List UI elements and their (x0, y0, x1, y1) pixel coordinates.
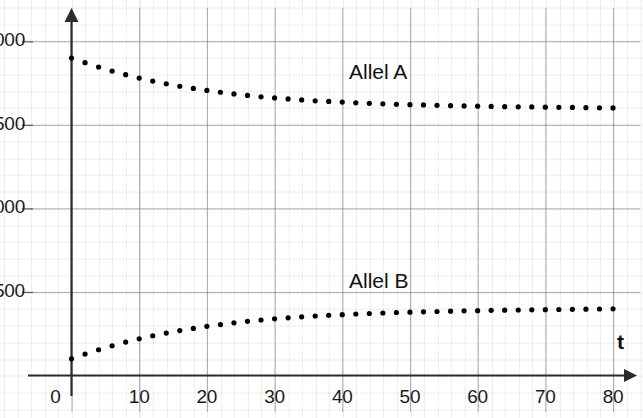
data-point (448, 103, 453, 108)
data-point (218, 322, 223, 327)
data-point (69, 356, 74, 361)
x-axis-tick-label: 70 (515, 386, 575, 408)
data-point (272, 95, 277, 100)
data-point (353, 100, 358, 105)
data-point (434, 309, 439, 314)
data-point (475, 104, 480, 109)
data-point (258, 317, 263, 322)
data-point (489, 308, 494, 313)
major-gridlines (30, 8, 640, 412)
data-point (313, 98, 318, 103)
data-point (340, 312, 345, 317)
x-axis-arrow-icon (624, 369, 637, 382)
data-point (556, 105, 561, 110)
data-point (96, 64, 101, 69)
x-axis-tick-label: 10 (109, 386, 169, 408)
y-axis-tick-label: 1500 (0, 113, 25, 135)
data-point (380, 101, 385, 106)
data-point (407, 102, 412, 107)
data-point (177, 84, 182, 89)
data-point (461, 308, 466, 313)
data-point (218, 90, 223, 95)
data-point (597, 105, 602, 110)
x-axis-tick-label: 20 (177, 386, 237, 408)
data-point (137, 75, 142, 80)
data-point (204, 88, 209, 93)
data-point (326, 99, 331, 104)
data-point (137, 336, 142, 341)
data-point (421, 102, 426, 107)
data-point (82, 60, 87, 65)
data-point (610, 105, 615, 110)
data-point (110, 343, 115, 348)
data-point (543, 105, 548, 110)
y-axis-arrow-icon (65, 8, 79, 22)
data-point (286, 96, 291, 101)
data-point (82, 352, 87, 357)
data-point (367, 101, 372, 106)
data-point (286, 315, 291, 320)
data-point (583, 105, 588, 110)
x-axis-tick-label: 80 (583, 386, 643, 408)
data-point (543, 307, 548, 312)
data-point (299, 97, 304, 102)
data-point (340, 100, 345, 105)
y-axis-tick-marks (22, 42, 33, 293)
data-point (448, 309, 453, 314)
data-point (191, 86, 196, 91)
x-axis-tick-label: 40 (312, 386, 372, 408)
data-point (461, 103, 466, 108)
data-point (516, 307, 521, 312)
data-point (489, 104, 494, 109)
data-point (69, 55, 74, 60)
data-point (164, 81, 169, 86)
data-point (191, 326, 196, 331)
data-point (245, 93, 250, 98)
x-axis-tick-label: 50 (380, 386, 440, 408)
data-point (353, 311, 358, 316)
data-point (502, 308, 507, 313)
data-point (583, 307, 588, 312)
data-point (407, 310, 412, 315)
data-point (394, 310, 399, 315)
data-point (150, 78, 155, 83)
data-point (231, 320, 236, 325)
y-axis-tick-label: 2000 (0, 29, 25, 51)
data-point (367, 311, 372, 316)
data-point (516, 104, 521, 109)
data-point (204, 324, 209, 329)
data-point (258, 94, 263, 99)
data-point (299, 314, 304, 319)
data-point (570, 105, 575, 110)
data-point (421, 309, 426, 314)
data-point (475, 308, 480, 313)
x-axis-label: t (617, 330, 624, 354)
data-point (231, 91, 236, 96)
data-point (245, 319, 250, 324)
data-point (529, 307, 534, 312)
series-annotation-allel-b: Allel B (349, 269, 409, 293)
series-annotation-allel-a: Allel A (349, 60, 407, 84)
data-point (326, 313, 331, 318)
data-point (177, 328, 182, 333)
x-axis-tick-label: 0 (26, 386, 86, 408)
chart-container: 500100015002000 01020304050607080 Allel … (0, 0, 643, 418)
data-point (570, 307, 575, 312)
data-point (96, 347, 101, 352)
chart-plot-area (0, 0, 643, 418)
data-point (164, 330, 169, 335)
data-point (394, 102, 399, 107)
data-point (313, 313, 318, 318)
data-point (272, 316, 277, 321)
data-point (123, 72, 128, 77)
data-point (150, 333, 155, 338)
data-point (434, 103, 439, 108)
data-point (110, 68, 115, 73)
data-point (597, 306, 602, 311)
y-axis-tick-label: 1000 (0, 196, 25, 218)
data-point (123, 339, 128, 344)
data-point (529, 104, 534, 109)
x-axis-tick-label: 60 (448, 386, 508, 408)
data-point (556, 307, 561, 312)
data-point (502, 104, 507, 109)
